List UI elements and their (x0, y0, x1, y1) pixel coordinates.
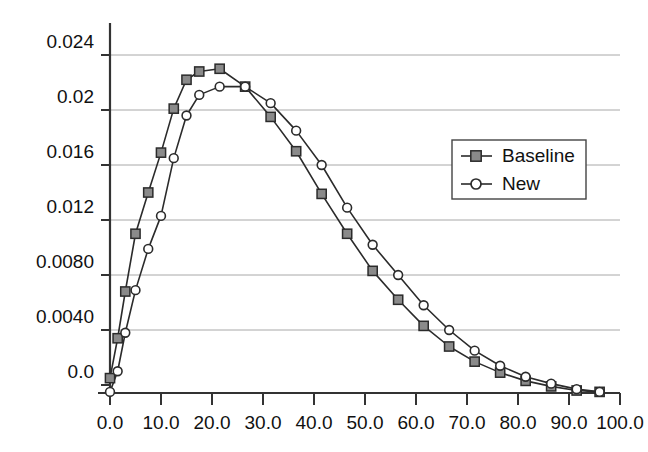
data-point-new (547, 379, 556, 388)
x-tick-label: 0.0 (97, 412, 123, 433)
data-point-baseline (470, 357, 479, 366)
data-point-baseline (195, 67, 204, 76)
data-point-baseline (317, 189, 326, 198)
legend-marker-filled-square-icon (471, 151, 481, 161)
legend-label-new: New (502, 173, 540, 194)
data-point-new (144, 244, 153, 253)
data-point-new (215, 82, 224, 91)
data-point-baseline (368, 266, 377, 275)
data-point-new (368, 240, 377, 249)
data-point-new (496, 361, 505, 370)
data-point-new (317, 161, 326, 170)
y-tick-label: 0.0040 (36, 306, 94, 327)
data-point-new (595, 387, 604, 396)
data-point-baseline (156, 148, 165, 157)
data-point-new (106, 387, 115, 396)
data-point-new (292, 126, 301, 135)
data-point-new (182, 111, 191, 120)
x-axis-tick-labels: 0.010.020.030.040.050.060.070.080.090.01… (97, 412, 644, 433)
data-point-baseline (419, 321, 428, 330)
data-point-new (445, 326, 454, 335)
data-point-baseline (266, 112, 275, 121)
x-tick-label: 100.0 (596, 412, 644, 433)
x-tick-label: 20.0 (194, 412, 231, 433)
x-tick-label: 50.0 (347, 412, 384, 433)
y-tick-label: 0.012 (46, 196, 94, 217)
data-point-new (394, 271, 403, 280)
data-point-new (470, 346, 479, 355)
data-point-baseline (144, 188, 153, 197)
data-point-baseline (292, 147, 301, 156)
y-tick-label: 0.02 (57, 86, 94, 107)
line-chart: 0.00.00400.00800.0120.0160.020.024 0.010… (0, 0, 648, 452)
x-tick-label: 40.0 (296, 412, 333, 433)
data-point-new (521, 372, 530, 381)
data-point-baseline (215, 64, 224, 73)
legend-label-baseline: Baseline (502, 145, 575, 166)
chart-legend[interactable]: BaselineNew (452, 140, 586, 199)
data-point-new (113, 367, 122, 376)
data-point-new (195, 90, 204, 99)
y-tick-label: 0.0 (68, 361, 94, 382)
x-tick-label: 60.0 (398, 412, 435, 433)
data-point-new (157, 211, 166, 220)
x-tick-label: 90.0 (551, 412, 588, 433)
data-point-baseline (105, 374, 114, 383)
data-point-new (131, 286, 140, 295)
data-point-new (419, 301, 428, 310)
x-tick-label: 70.0 (449, 412, 486, 433)
y-tick-label: 0.0080 (36, 251, 94, 272)
y-tick-label: 0.024 (46, 31, 94, 52)
legend-marker-open-circle-icon (471, 179, 481, 189)
data-point-baseline (169, 104, 178, 113)
data-point-baseline (131, 229, 140, 238)
data-point-new (266, 99, 275, 108)
x-tick-label: 80.0 (500, 412, 537, 433)
data-point-baseline (182, 75, 191, 84)
x-tick-label: 30.0 (245, 412, 282, 433)
data-point-new (241, 82, 250, 91)
data-point-new (169, 154, 178, 163)
data-point-baseline (121, 287, 130, 296)
data-point-baseline (394, 295, 403, 304)
chart-figure: 0.00.00400.00800.0120.0160.020.024 0.010… (0, 0, 648, 452)
y-tick-label: 0.016 (46, 141, 94, 162)
data-point-baseline (343, 229, 352, 238)
data-point-new (343, 203, 352, 212)
data-point-new (121, 328, 130, 337)
data-point-baseline (445, 342, 454, 351)
x-tick-label: 10.0 (143, 412, 180, 433)
data-point-new (572, 385, 581, 394)
